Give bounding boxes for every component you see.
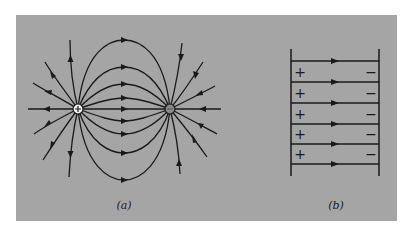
parallel-plates-diagram: + + + + + − − − − − (b): [291, 49, 379, 212]
caption-b: (b): [328, 199, 344, 212]
svg-text:+: +: [294, 106, 306, 122]
svg-text:+: +: [294, 64, 306, 80]
figure-svg: (a) + + + + + − − −: [0, 0, 412, 231]
svg-text:−: −: [365, 85, 377, 101]
positive-charge: [73, 104, 83, 114]
svg-text:+: +: [294, 146, 306, 162]
negative-outer-field-lines: [170, 43, 221, 174]
negative-charge: [165, 104, 175, 114]
caption-a: (a): [116, 199, 131, 212]
connecting-field-lines: [78, 37, 170, 183]
positive-outer-field-lines: [28, 40, 78, 177]
dipole-diagram: (a): [28, 37, 221, 212]
svg-text:−: −: [365, 64, 377, 80]
negative-signs: − − − − −: [365, 64, 377, 162]
positive-signs: + + + + +: [294, 64, 306, 162]
svg-text:+: +: [294, 85, 306, 101]
svg-text:−: −: [365, 126, 377, 142]
svg-text:−: −: [365, 106, 377, 122]
svg-text:−: −: [365, 146, 377, 162]
svg-text:+: +: [294, 126, 306, 142]
